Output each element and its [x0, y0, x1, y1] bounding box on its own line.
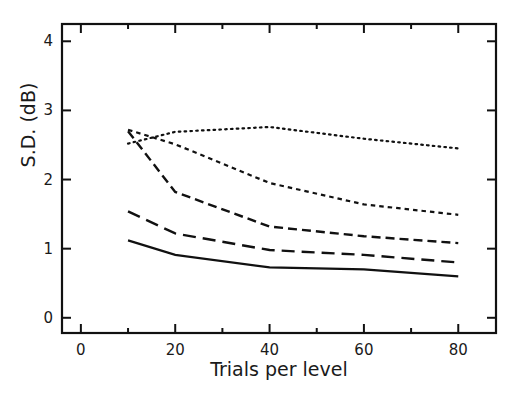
y-axis-label: S.D. (dB) [17, 83, 39, 168]
plot-frame [62, 24, 496, 333]
x-tick-label: 20 [166, 341, 185, 359]
axis-tick-labels: 02040608001234 [43, 32, 467, 359]
axis-ticks [62, 24, 496, 333]
x-axis-label: Trials per level [210, 358, 348, 380]
line-chart: 02040608001234 [0, 0, 513, 400]
y-tick-label: 0 [43, 309, 53, 327]
series-line-short-dash [128, 130, 458, 215]
y-tick-label: 2 [43, 171, 53, 189]
y-tick-label: 4 [43, 32, 53, 50]
data-series-group [128, 127, 458, 276]
y-tick-label: 1 [43, 240, 53, 258]
x-tick-label: 60 [354, 341, 373, 359]
y-axis-label-container: S.D. (dB) [13, 45, 43, 205]
x-tick-label: 80 [449, 341, 468, 359]
x-tick-label: 40 [260, 341, 279, 359]
x-axis-label-container: Trials per level [83, 358, 475, 380]
x-tick-label: 0 [76, 341, 86, 359]
figure-canvas: 02040608001234 S.D. (dB) Trials per leve… [0, 0, 513, 400]
series-line-medium-dash [128, 131, 458, 243]
y-tick-label: 3 [43, 101, 53, 119]
plot-box-border [62, 24, 496, 333]
